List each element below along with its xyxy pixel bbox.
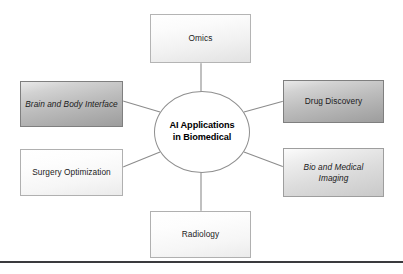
node-brain-and-body-interface-label: Brain and Body Interface xyxy=(21,99,122,110)
node-brain-line2: Interface xyxy=(85,99,118,109)
connector-hub-to-surgery xyxy=(123,152,160,167)
node-bio-and-medical-imaging-label: Bio and Medical Imaging xyxy=(284,162,383,184)
node-brain-line1: Brain and Body xyxy=(25,99,82,109)
hub-label-line1: AI Applications xyxy=(169,120,234,132)
node-imaging-line1: Bio and Medical xyxy=(304,162,364,172)
node-bio-and-medical-imaging[interactable]: Bio and Medical Imaging xyxy=(283,148,384,197)
diagram-canvas: Omics Drug Discovery Bio and Medical Ima… xyxy=(0,0,403,274)
hub-label: AI Applications in Biomedical xyxy=(169,120,234,144)
connector-hub-to-brain xyxy=(123,101,160,112)
node-omics-label: Omics xyxy=(185,33,217,44)
node-surgery-optimization-label: Surgery Optimization xyxy=(28,167,114,178)
node-brain-and-body-interface[interactable]: Brain and Body Interface xyxy=(20,81,123,127)
connector-hub-to-drug xyxy=(244,101,284,112)
bottom-divider-rule xyxy=(0,261,403,263)
node-imaging-line2: Imaging xyxy=(319,173,349,183)
node-radiology[interactable]: Radiology xyxy=(150,211,251,258)
node-radiology-label: Radiology xyxy=(178,229,223,240)
hub-label-line2: in Biomedical xyxy=(169,132,234,144)
connector-hub-to-imaging xyxy=(244,152,284,167)
hub-node-ai-applications-in-biomedical[interactable]: AI Applications in Biomedical xyxy=(154,91,250,173)
node-omics[interactable]: Omics xyxy=(150,14,251,63)
node-surgery-optimization[interactable]: Surgery Optimization xyxy=(20,149,123,196)
node-drug-discovery-label: Drug Discovery xyxy=(301,96,366,107)
node-drug-discovery[interactable]: Drug Discovery xyxy=(283,80,384,123)
